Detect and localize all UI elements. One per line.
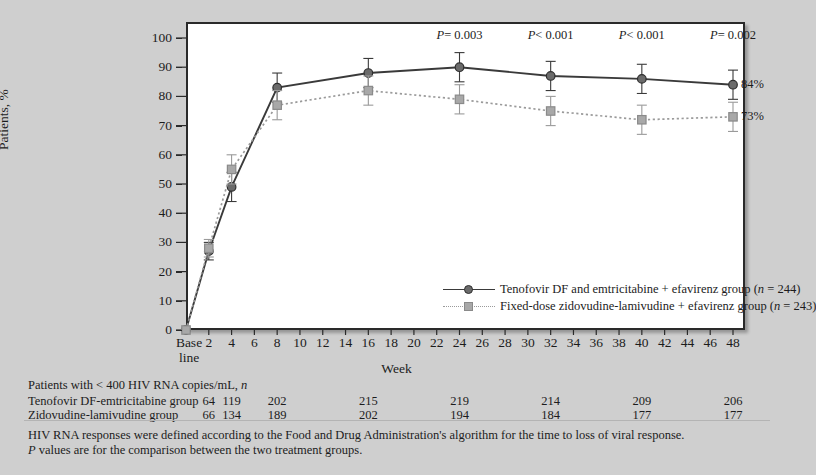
endpoint-label-84%: 84% bbox=[741, 77, 764, 92]
y-tick-label-0: 0 bbox=[128, 323, 172, 337]
counts-value-week-4: 119 bbox=[215, 394, 249, 409]
y-tick-mark-30 bbox=[176, 242, 182, 243]
footnote-1: HIV RNA responses were defined according… bbox=[28, 428, 773, 443]
x-axis-title: Week bbox=[0, 361, 793, 377]
x-tick-label-48: 48 bbox=[718, 336, 748, 350]
p-value-label-week-40: P< 0.001 bbox=[619, 28, 665, 43]
legend-item-1: Tenofovir DF and emtricitabine + efavire… bbox=[443, 281, 816, 298]
counts-table-body: Tenofovir DF-emtricitabine group64119202… bbox=[28, 394, 768, 423]
counts-value-week-40: 209 bbox=[625, 394, 659, 409]
y-tick-mark-50 bbox=[176, 184, 182, 185]
figure-footnotes: HIV RNA responses were defined according… bbox=[28, 428, 773, 458]
y-tick-label-60: 60 bbox=[128, 148, 172, 162]
y-axis-title: Patients, % bbox=[0, 89, 12, 150]
counts-row-label: Tenofovir DF-emtricitabine group bbox=[28, 394, 199, 409]
legend-marker-square-icon bbox=[464, 302, 473, 311]
y-tick-mark-100 bbox=[176, 38, 182, 39]
legend-item-label: Fixed-dose zidovudine-lamivudine + efavi… bbox=[500, 298, 816, 315]
y-tick-label-70: 70 bbox=[128, 119, 172, 133]
counts-value-week-8: 202 bbox=[260, 394, 294, 409]
y-tick-mark-90 bbox=[176, 67, 182, 68]
counts-value-week-32: 214 bbox=[534, 394, 568, 409]
chart-legend: Tenofovir DF and emtricitabine + efavire… bbox=[443, 281, 816, 315]
horizontal-divider bbox=[24, 420, 770, 421]
y-tick-mark-80 bbox=[176, 96, 182, 97]
p-value-label-week-24: P= 0.003 bbox=[437, 28, 483, 43]
y-tick-label-90: 90 bbox=[128, 60, 172, 74]
y-tick-label-40: 40 bbox=[128, 206, 172, 220]
counts-row-1: Tenofovir DF-emtricitabine group64119202… bbox=[28, 394, 768, 409]
y-tick-mark-0 bbox=[176, 330, 182, 331]
y-tick-label-50: 50 bbox=[128, 177, 172, 191]
baseline-label-line2: line bbox=[179, 350, 199, 365]
y-tick-label-10: 10 bbox=[128, 294, 172, 308]
p-value-label-week-48: P= 0.002 bbox=[710, 28, 756, 43]
y-tick-mark-60 bbox=[176, 155, 182, 156]
legend-key-circle-icon bbox=[443, 284, 495, 295]
counts-value-week-24: 219 bbox=[443, 394, 477, 409]
legend-key-square-icon bbox=[443, 301, 495, 312]
y-tick-label-100: 100 bbox=[128, 31, 172, 45]
p-value-label-week-32: P< 0.001 bbox=[528, 28, 574, 43]
legend-marker-circle-icon bbox=[464, 285, 473, 294]
y-tick-label-80: 80 bbox=[128, 89, 172, 103]
y-tick-label-30: 30 bbox=[128, 235, 172, 249]
counts-table-title: Patients with < 400 HIV RNA copies/mL, n bbox=[28, 378, 768, 393]
counts-value-week-48: 206 bbox=[716, 394, 750, 409]
patient-counts-table: Patients with < 400 HIV RNA copies/mL, n… bbox=[28, 378, 768, 423]
y-tick-mark-10 bbox=[176, 301, 182, 302]
counts-value-week-16: 215 bbox=[351, 394, 385, 409]
endpoint-label-73%: 73% bbox=[741, 109, 764, 124]
legend-item-label: Tenofovir DF and emtricitabine + efavire… bbox=[500, 281, 800, 298]
y-tick-label-20: 20 bbox=[128, 265, 172, 279]
y-tick-mark-20 bbox=[176, 272, 182, 273]
y-tick-mark-40 bbox=[176, 213, 182, 214]
footnote-2: P values are for the comparison between … bbox=[28, 443, 773, 458]
legend-item-2: Fixed-dose zidovudine-lamivudine + efavi… bbox=[443, 298, 816, 315]
y-tick-mark-70 bbox=[176, 126, 182, 127]
